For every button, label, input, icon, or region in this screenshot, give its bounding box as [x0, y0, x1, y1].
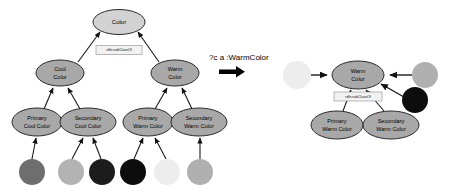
node-label-line1: Primary — [327, 118, 346, 124]
result-node-secondary-warm-color[interactable]: Secondary Warm Color — [363, 111, 419, 139]
sparql-query-text: ?c a :WarmColor — [209, 53, 269, 62]
node-label-line2: Color — [351, 76, 365, 82]
node-label-line1: Secondary — [75, 115, 102, 121]
right-subclassof-label: rdfs:subClassOf — [334, 92, 382, 101]
rdf-graph-svg: Color Cool Color Warm Color Primary Cool… — [0, 0, 452, 194]
node-cool-color[interactable]: Cool Color — [36, 60, 84, 86]
node-warm-color[interactable]: Warm Color — [151, 60, 199, 86]
node-label-line1: Secondary — [378, 118, 405, 124]
node-label-line1: Primary — [27, 115, 46, 121]
prop-label-text: rdfs:subClassOf — [345, 95, 371, 99]
color-swatch — [19, 159, 45, 185]
node-label-line1: Warm — [168, 66, 183, 72]
node-label-line2: Color — [168, 74, 182, 80]
prop-label-text: rdfs:subClassOf — [106, 48, 132, 52]
node-label-line1: Warm — [351, 68, 366, 74]
result-node-warm-color[interactable]: Warm Color — [332, 61, 384, 89]
color-swatch — [120, 159, 146, 185]
node-label-line1: Secondary — [186, 115, 213, 121]
node-label-line2: Color — [53, 74, 67, 80]
edge-rswatch-dark-to-warm — [381, 84, 404, 97]
node-color[interactable]: Color — [93, 10, 145, 35]
node-label-line2: Cool Color — [75, 123, 102, 129]
diagram-canvas: Color Cool Color Warm Color Primary Cool… — [0, 0, 452, 194]
node-secondary-cool-color[interactable]: Secondary Cool Color — [60, 108, 116, 136]
edge-swatch-cool-3 — [93, 138, 101, 159]
node-label: Color — [112, 19, 126, 25]
color-swatch — [58, 159, 84, 185]
node-primary-cool-color[interactable]: Primary Cool Color — [12, 108, 62, 136]
node-label-line2: Warm Color — [376, 126, 406, 132]
left-panel-swatches — [19, 159, 213, 185]
node-label-line2: Warm Color — [184, 123, 214, 129]
color-swatch — [283, 61, 311, 89]
edge-swatch-warm-2 — [155, 138, 166, 159]
edge-secondarycool-to-cool — [68, 88, 80, 109]
color-swatch — [89, 159, 115, 185]
color-swatch — [402, 87, 428, 113]
color-swatch — [412, 62, 438, 88]
left-subclassof-label: rdfs:subClassOf — [96, 46, 142, 55]
color-swatch — [187, 159, 213, 185]
node-secondary-warm-color[interactable]: Secondary Warm Color — [171, 108, 227, 136]
node-label-line2: Warm Color — [133, 123, 163, 129]
edge-swatch-cool-2 — [72, 138, 83, 159]
edge-secondarywarm-to-warm — [182, 88, 192, 109]
edge-primarywarm-to-warm — [155, 88, 167, 109]
node-label-line1: Cool — [54, 66, 66, 72]
node-label-line2: Warm Color — [322, 126, 352, 132]
edge-swatch-warm-1 — [134, 138, 143, 159]
node-label-line2: Cool Color — [24, 123, 51, 129]
node-primary-warm-color[interactable]: Primary Warm Color — [123, 108, 173, 136]
edge-primarycool-to-cool — [44, 88, 53, 109]
transition-right-arrow-icon — [219, 66, 245, 78]
result-node-primary-warm-color[interactable]: Primary Warm Color — [311, 111, 363, 139]
node-label-line1: Primary — [138, 115, 157, 121]
color-swatch — [154, 159, 180, 185]
edge-swatch-cool-1 — [32, 138, 36, 159]
